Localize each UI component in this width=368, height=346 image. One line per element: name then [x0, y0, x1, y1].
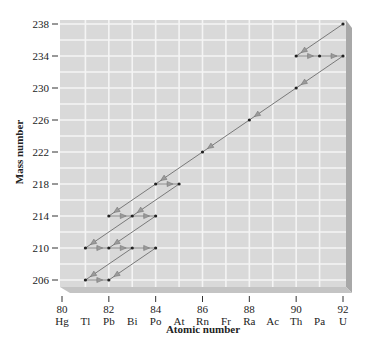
- decay-chart: 206210214218222226230234238 808284868890…: [0, 0, 368, 346]
- nuclide-point: [84, 278, 87, 281]
- nuclide-point: [154, 182, 157, 185]
- y-tick-label: 234: [33, 50, 50, 62]
- nuclide-point: [341, 54, 344, 57]
- x-tick-label: 86: [197, 303, 209, 315]
- element-symbol-label: Th: [290, 315, 303, 327]
- x-tick-label: 84: [150, 303, 162, 315]
- x-axis-title: Atomic number: [166, 323, 240, 335]
- element-symbol-label: Hg: [55, 315, 69, 327]
- y-tick-label: 230: [33, 82, 50, 94]
- x-tick-label: 92: [338, 303, 349, 315]
- element-symbol-label: Ac: [266, 315, 279, 327]
- nuclide-point: [131, 214, 134, 217]
- element-symbol-label: Po: [150, 315, 162, 327]
- y-axis: 206210214218222226230234238: [33, 18, 59, 286]
- shadow-bottom: [60, 287, 352, 293]
- nuclide-point: [107, 214, 110, 217]
- element-symbol-label: Tl: [81, 315, 91, 327]
- y-tick-label: 238: [33, 18, 50, 30]
- nuclide-point: [318, 54, 321, 57]
- nuclide-point: [201, 150, 204, 153]
- shadow-right: [346, 20, 352, 293]
- element-symbol-label: U: [339, 315, 347, 327]
- y-tick-label: 206: [33, 274, 50, 286]
- nuclide-point: [107, 246, 110, 249]
- nuclide-point: [248, 118, 251, 121]
- x-tick-label: 88: [244, 303, 256, 315]
- y-axis-title: Mass number: [13, 120, 25, 185]
- nuclide-point: [295, 86, 298, 89]
- plot-background: [60, 20, 352, 293]
- nuclide-point: [84, 246, 87, 249]
- x-tick-label: 80: [57, 303, 69, 315]
- element-symbol-label: Pb: [103, 315, 115, 327]
- y-tick-label: 210: [33, 242, 50, 254]
- y-tick-label: 214: [33, 210, 50, 222]
- x-tick-label: 82: [103, 303, 114, 315]
- nuclide-point: [107, 278, 110, 281]
- element-symbol-label: Ra: [243, 315, 255, 327]
- element-symbol-label: Bi: [127, 315, 137, 327]
- nuclide-point: [341, 22, 344, 25]
- x-tick-label: 90: [291, 303, 303, 315]
- nuclide-point: [131, 246, 134, 249]
- element-symbol-label: Pa: [314, 315, 325, 327]
- nuclide-point: [177, 182, 180, 185]
- y-tick-label: 222: [33, 146, 50, 158]
- y-tick-label: 218: [33, 178, 50, 190]
- y-tick-label: 226: [33, 114, 50, 126]
- nuclide-point: [154, 246, 157, 249]
- nuclide-point: [295, 54, 298, 57]
- nuclide-point: [154, 214, 157, 217]
